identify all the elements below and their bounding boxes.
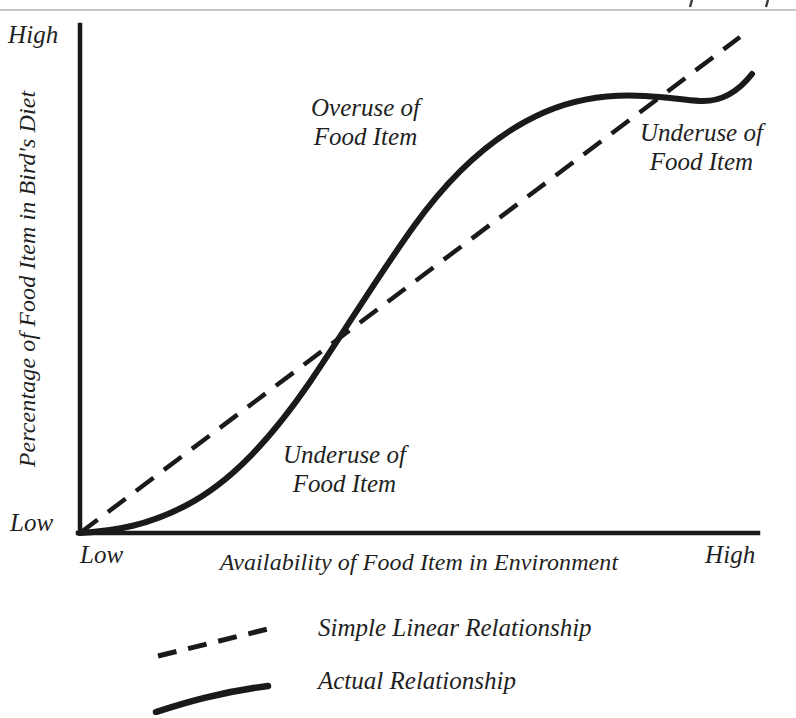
annotation-overuse-line-1: Overuse of (311, 93, 420, 122)
chart-legend: Simple Linear Relationship Actual Relati… (150, 612, 770, 718)
legend-swatch-solid-curve (150, 665, 310, 715)
legend-label-simple-linear-relationship: Simple Linear Relationship (318, 614, 592, 642)
annotation-overuse-line-2: Food Item (311, 122, 420, 151)
y-axis-title: Percentage of Food Item in Bird's Diet (14, 25, 54, 533)
legend-swatch-dashed-line (150, 612, 310, 662)
clipped-text-descender (766, 0, 768, 7)
legend-item-simple-linear-relationship: Simple Linear Relationship (150, 612, 770, 662)
legend-label-actual-relationship: Actual Relationship (318, 667, 516, 695)
legend-item-actual-relationship: Actual Relationship (150, 665, 770, 715)
chart-figure: High Low Low High Percentage of Food Ite… (0, 0, 796, 718)
annotation-underuse-right: Underuse of Food Item (640, 118, 763, 176)
clipped-text-descender (690, 0, 692, 7)
annotation-overuse: Overuse of Food Item (311, 93, 420, 151)
annotation-underuse-low: Underuse of Food Item (283, 440, 406, 498)
x-axis-title: Availability of Food Item in Environment (80, 549, 758, 577)
annotation-underuse-right-line-1: Underuse of (640, 118, 763, 147)
annotation-underuse-right-line-2: Food Item (640, 147, 763, 176)
annotation-underuse-low-line-2: Food Item (283, 469, 406, 498)
annotation-underuse-low-line-1: Underuse of (283, 440, 406, 469)
